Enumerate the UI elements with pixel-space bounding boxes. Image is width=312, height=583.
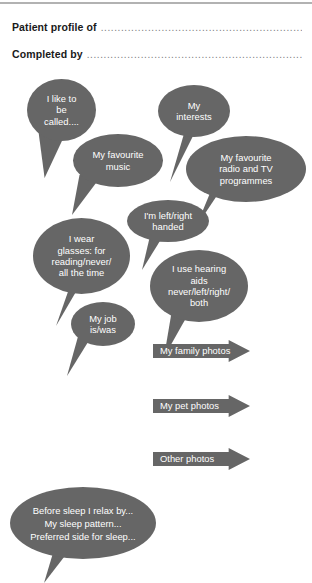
- patient-profile-sheet: Patient profile of .....................…: [0, 0, 312, 583]
- arrow-pet-photos[interactable]: My pet photos: [153, 395, 250, 417]
- bubble-music-text: My favourite music: [78, 149, 158, 172]
- field-label-patient-profile-of: Patient profile of: [12, 21, 97, 34]
- bubble-glasses[interactable]: I wear glasses: for reading/never/ all t…: [33, 218, 130, 294]
- bubble-hearing-text: I use hearing aids never/left/right/ bot…: [155, 263, 243, 309]
- bubble-glasses-text: I wear glasses: for reading/never/ all t…: [38, 233, 125, 279]
- field-completed-by[interactable]: Completed by ...........................…: [12, 48, 302, 61]
- bubble-interests[interactable]: My interests: [158, 85, 230, 137]
- bubble-handedness-text: I'm left/right handed: [132, 210, 204, 233]
- field-label-completed-by: Completed by: [12, 48, 83, 61]
- bubble-radio-tv[interactable]: My favourite radio and TV programmes: [186, 136, 306, 202]
- bubble-interests-text: My interests: [163, 100, 225, 123]
- bubble-called-text: I like to be called....: [32, 93, 91, 127]
- top-divider-rule: [0, 2, 312, 4]
- field-dotted-line-patient-profile-of: ........................................…: [101, 23, 302, 32]
- arrow-family-photos-label: My family photos: [153, 345, 230, 357]
- bubble-called[interactable]: I like to be called....: [27, 79, 96, 141]
- arrow-pet-photos-label: My pet photos: [153, 400, 219, 412]
- bubble-radio-tv-text: My favourite radio and TV programmes: [191, 152, 301, 186]
- bubble-job[interactable]: My job is/was: [71, 302, 135, 346]
- bubble-sleep-text: Before sleep I relax by... My sleep patt…: [30, 504, 135, 543]
- bubble-hearing[interactable]: I use hearing aids never/left/right/ bot…: [150, 250, 248, 322]
- arrow-other-photos[interactable]: Other photos: [153, 448, 250, 470]
- field-dotted-line-completed-by: ........................................…: [87, 50, 302, 59]
- field-patient-profile-of[interactable]: Patient profile of .....................…: [12, 21, 302, 34]
- bubble-job-text: My job is/was: [76, 313, 130, 336]
- bubble-handedness[interactable]: I'm left/right handed: [127, 200, 209, 242]
- arrow-other-photos-label: Other photos: [153, 453, 214, 465]
- bubble-sleep[interactable]: Before sleep I relax by... My sleep patt…: [10, 487, 156, 559]
- bubble-music[interactable]: My favourite music: [73, 134, 163, 187]
